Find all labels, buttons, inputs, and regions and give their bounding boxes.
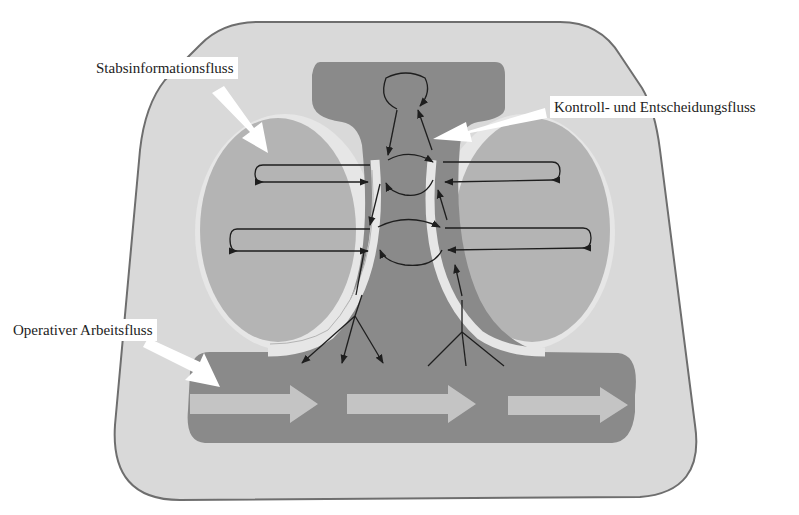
label-control-decision-flow: Kontroll- und Entscheidungsfluss [550,96,760,118]
label-staff-information-flow: Stabsinformationsfluss [92,57,238,79]
left-staff-oval [200,118,356,342]
label-operative-work-flow: Operativer Arbeitsfluss [9,319,157,341]
